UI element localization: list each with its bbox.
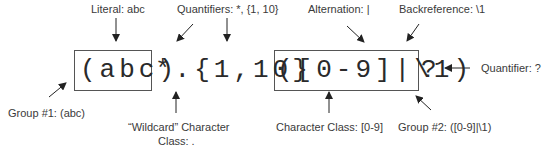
arrow-quantifier-star: [177, 24, 193, 41]
label-group1: Group #1: (abc): [8, 107, 85, 120]
arrow-group2: [416, 96, 431, 110]
arrow-alternation: [347, 26, 364, 42]
label-quantifiers: Quantifiers: *, {1, 10}: [177, 3, 279, 16]
label-backreference: Backreference: \1: [399, 3, 485, 16]
arrow-group1: [49, 83, 66, 97]
label-group2: Group #2: ([0-9]|\1): [398, 121, 491, 134]
regex-tail: ?: [421, 54, 441, 86]
label-literal: Literal: abc: [91, 3, 145, 16]
label-alternation: Alternation: |: [308, 3, 370, 16]
label-wildcard-line2: Class: .: [158, 135, 195, 148]
label-char-class: Character Class: [0-9]: [276, 121, 383, 134]
arrow-backreference: [407, 24, 419, 41]
regex-group2: ([0-9]|\1): [277, 54, 473, 86]
label-quantifier-optional: Quantifier: ?: [481, 62, 541, 75]
label-wildcard-line1: “Wildcard” Character: [128, 121, 229, 134]
